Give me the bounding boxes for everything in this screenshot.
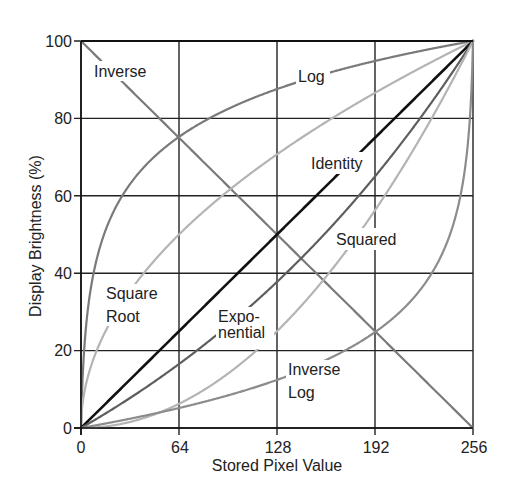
y-tick-80: 80: [54, 110, 72, 127]
label-square-root-line2: Root: [106, 308, 140, 325]
label-inverse-log-line2: Log: [288, 384, 315, 401]
x-tick-256: 256: [461, 439, 488, 456]
y-tick-0: 0: [63, 420, 72, 437]
x-tick-labels: 0 64 128 192 256: [77, 439, 488, 456]
label-identity: Identity: [311, 155, 363, 172]
y-tick-40: 40: [54, 265, 72, 282]
x-tick-128: 128: [265, 439, 292, 456]
label-log: Log: [298, 68, 325, 85]
x-tick-64: 64: [171, 439, 189, 456]
brightness-chart: 0 20 40 60 80 100 0 64 128 192 256 Store…: [0, 0, 507, 494]
x-tick-192: 192: [363, 439, 390, 456]
x-tick-0: 0: [77, 439, 86, 456]
y-tick-100: 100: [45, 33, 72, 50]
y-axis-title: Display Brightness (%): [27, 155, 44, 317]
y-tick-20: 20: [54, 342, 72, 359]
label-inverse: Inverse: [94, 63, 147, 80]
label-exponential-line1: Expo-: [218, 308, 260, 325]
label-square-root-line1: Square: [106, 285, 158, 302]
label-inverse-log-line1: Inverse: [288, 361, 341, 378]
y-tick-labels: 0 20 40 60 80 100: [45, 33, 72, 437]
label-exponential-line2: nential: [218, 324, 265, 341]
label-squared: Squared: [336, 231, 397, 248]
y-tick-60: 60: [54, 188, 72, 205]
x-axis-title: Stored Pixel Value: [212, 457, 343, 474]
